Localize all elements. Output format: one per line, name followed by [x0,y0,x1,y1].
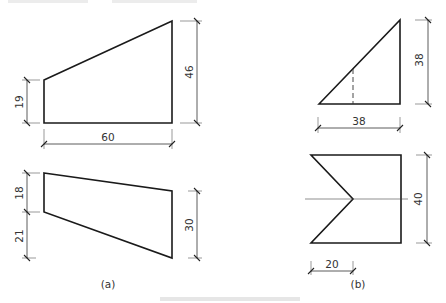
dimension-value: 38 [352,115,365,127]
dimension-bottom-20: 20 [308,258,356,275]
dimension-value: 19 [13,95,25,108]
dimension-right-46: 46 [180,18,202,126]
dimension-right-38: 38 [413,17,432,107]
dimension-value-upper: 18 [13,186,25,199]
dimension-value: 30 [183,218,195,231]
dimension-bottom-60: 60 [41,129,175,149]
panel-b-notched-shape: 40 20 [305,152,432,275]
dimension-bottom-38: 38 [315,115,403,133]
cropped-header-text [8,0,197,3]
dimension-left-19: 19 [13,77,40,126]
panel-a-lower-trapezoid: 18 21 30 [13,170,202,261]
dimension-value: 60 [101,131,114,143]
panel-a-label: (a) [101,278,116,290]
panel-a-upper-trapezoid: 19 46 60 [13,18,202,149]
cropped-caption [160,297,300,301]
dimension-value: 40 [412,192,424,205]
dimension-value: 46 [183,65,195,79]
dimension-value-lower: 21 [13,229,25,242]
panel-b-triangle: 38 38 [315,17,432,133]
technical-drawing: 19 46 60 [0,0,446,303]
dimension-value: 38 [413,53,425,66]
dimension-right-30: 30 [183,188,202,261]
dimension-right-40: 40 [412,152,432,246]
dimension-left-18-21: 18 21 [13,170,40,261]
dimension-value: 20 [325,258,338,270]
panel-b-label: (b) [351,278,366,290]
